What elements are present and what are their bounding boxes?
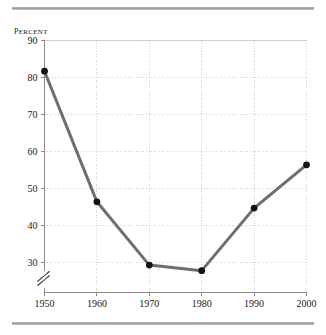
- svg-text:90: 90: [28, 35, 38, 46]
- bottom-divider-rule: [12, 322, 314, 325]
- horizontal-gridlines: [45, 41, 307, 263]
- svg-text:80: 80: [28, 72, 38, 83]
- svg-text:40: 40: [28, 220, 38, 231]
- svg-text:1990: 1990: [244, 298, 264, 309]
- svg-text:2000: 2000: [297, 298, 317, 309]
- svg-text:50: 50: [28, 183, 38, 194]
- line-chart-plot: 30405060708090 195019601970198019902000: [0, 0, 326, 335]
- data-line-percent: [45, 71, 307, 270]
- x-axis-ticks: [45, 293, 307, 297]
- svg-text:70: 70: [28, 109, 38, 120]
- chart-figure: Percent 30405060708090 19501960197019801…: [0, 0, 326, 335]
- svg-text:30: 30: [28, 257, 38, 268]
- svg-text:1980: 1980: [192, 298, 212, 309]
- data-point-markers: [41, 68, 310, 274]
- x-tick-labels: 195019601970198019902000: [35, 298, 317, 309]
- svg-text:1960: 1960: [87, 298, 107, 309]
- svg-text:1970: 1970: [139, 298, 159, 309]
- svg-text:60: 60: [28, 146, 38, 157]
- y-tick-labels: 30405060708090: [28, 35, 38, 268]
- y-axis-break-icon: [38, 271, 50, 288]
- svg-text:1950: 1950: [35, 298, 55, 309]
